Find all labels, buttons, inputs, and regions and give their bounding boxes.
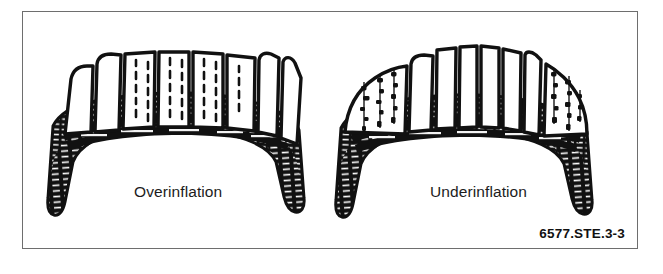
tread-rib (227, 55, 255, 131)
tread-rib (95, 54, 121, 132)
tread-rib (193, 52, 223, 128)
tire-label-underinflation: Underinflation (430, 183, 527, 201)
tread-rib (409, 55, 433, 132)
tread-rib (123, 52, 155, 129)
tread-rib (481, 46, 499, 128)
tread-rib (524, 52, 541, 135)
tread-shoulder-worn (345, 66, 407, 134)
figure-frame: Overinflation Underinflation 6577.STE.3-… (22, 11, 638, 249)
tread-rib (281, 58, 301, 144)
tire-label-overinflation: Overinflation (134, 183, 222, 201)
tread-rib (158, 52, 189, 127)
figure-id-label: 6577.STE.3-3 (539, 226, 625, 241)
tread-rib (436, 48, 456, 129)
tread-rib (459, 46, 477, 128)
tread-rib (503, 49, 521, 131)
tread-rib (65, 66, 93, 134)
tread-rib (258, 53, 279, 136)
